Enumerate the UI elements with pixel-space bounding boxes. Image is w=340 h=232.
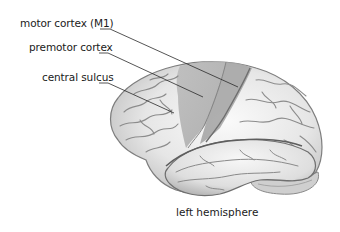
brain-illustration bbox=[0, 0, 340, 232]
label-central-sulcus: central sulcus bbox=[42, 71, 114, 83]
label-premotor-cortex: premotor cortex bbox=[29, 41, 113, 53]
caption-left-hemisphere: left hemisphere bbox=[176, 206, 258, 218]
brain-diagram: motor cortex (M1) premotor cortex centra… bbox=[0, 0, 340, 232]
label-motor-cortex-m1: motor cortex (M1) bbox=[20, 17, 114, 29]
